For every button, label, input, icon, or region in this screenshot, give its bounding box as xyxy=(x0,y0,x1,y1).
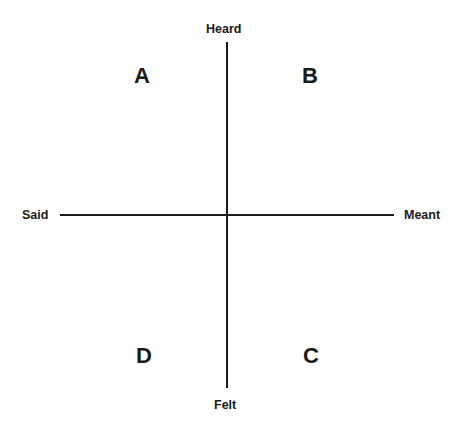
quadrant-diagram: Heard Felt Said Meant A B C D xyxy=(0,0,467,428)
quadrant-label-b: B xyxy=(302,65,318,87)
axis-label-left: Said xyxy=(22,208,48,222)
axis-label-top: Heard xyxy=(206,22,241,36)
axis-label-bottom: Felt xyxy=(214,398,236,412)
quadrant-label-c: C xyxy=(303,345,319,367)
quadrant-label-a: A xyxy=(134,65,150,87)
horizontal-axis xyxy=(60,214,394,216)
quadrant-label-d: D xyxy=(136,345,152,367)
axis-label-right: Meant xyxy=(404,208,440,222)
